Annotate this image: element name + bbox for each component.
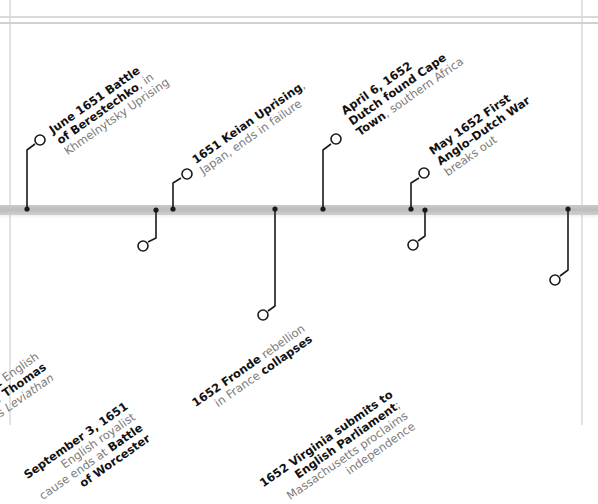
- marker-circle-icon: [331, 134, 341, 144]
- connector-virginia-massachusetts: [550, 206, 571, 285]
- timeline-dot-icon: [320, 206, 325, 211]
- marker-circle-icon: [419, 168, 429, 178]
- marker-circle-icon: [408, 240, 418, 250]
- connector-berestechko: [24, 135, 45, 212]
- marker-circle-icon: [138, 241, 148, 251]
- timeline-dot-icon: [24, 206, 29, 211]
- connector-cape-town: [320, 134, 341, 212]
- connector-fronde-collapses: [408, 207, 428, 250]
- timeline-dot-icon: [153, 207, 158, 212]
- timeline-dot-icon: [422, 207, 427, 212]
- timeline-dot-icon: [408, 206, 413, 211]
- connector-anglo-dutch-war: [408, 168, 429, 212]
- marker-circle-icon: [182, 169, 192, 179]
- marker-circle-icon: [35, 135, 45, 145]
- timeline-dot-icon: [170, 206, 175, 211]
- connector-hobbes-leviathan: [138, 207, 159, 251]
- connector-keian-uprising: [170, 169, 192, 212]
- marker-circle-icon: [258, 310, 268, 320]
- marker-circle-icon: [550, 275, 560, 285]
- connector-battle-of-worcester: [258, 206, 278, 320]
- timeline-dot-icon: [272, 206, 277, 211]
- timeline-dot-icon: [565, 206, 570, 211]
